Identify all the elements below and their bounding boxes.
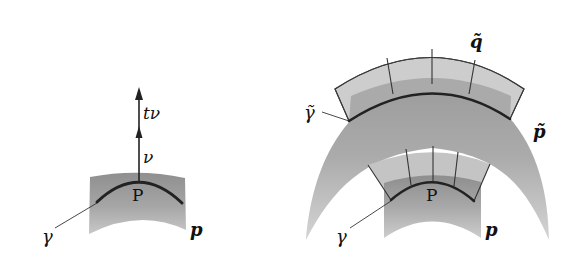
label-gamma: γ [42,226,53,247]
right-panel: q̃ γ̃ p̃ P γ p [304,31,549,247]
label-t-nu: tν [143,103,160,123]
arrowhead-nu-icon [136,126,143,138]
label-nu: ν [143,147,153,167]
label-surface-p: p [485,219,498,240]
label-q-tilde: q̃ [470,31,483,52]
label-point-p: P [426,185,437,205]
arrowhead-t-nu-icon [135,87,143,100]
label-p-tilde: p̃ [533,121,546,142]
gamma-tilde-leader-line [322,112,349,121]
diagram-canvas: tν ν P γ p q̃ γ̃ [0,0,584,265]
label-surface-p: p [190,219,203,240]
label-gamma-tilde: γ̃ [304,102,315,123]
label-gamma: γ [336,226,347,247]
left-panel: tν ν P γ p [42,87,203,247]
label-point-p: P [132,185,143,205]
